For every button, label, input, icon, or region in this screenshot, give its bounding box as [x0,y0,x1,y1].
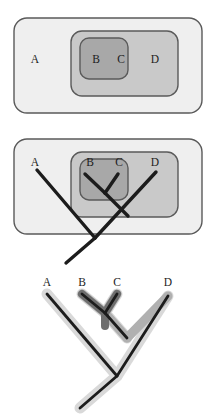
overlay-label-b: B [86,156,94,168]
overlay-label-d: D [151,156,159,168]
overlay-label-c: C [115,156,123,168]
branch-root [80,376,117,408]
overlay-label-a: A [31,156,40,168]
tree-label-c: C [113,276,121,288]
set-label-a: A [31,53,40,65]
nested-sets-panel: A B C D [0,0,217,130]
set-label-b: B [92,53,100,65]
nested-clade-figure: A B C D A B C D [0,0,217,415]
branch-root [66,238,95,263]
cladogram-panel: A B C D [0,268,217,415]
set-label-d: D [151,53,159,65]
tree-label-d: D [164,276,172,288]
tree-label-a: A [43,276,52,288]
tree-label-b: B [78,276,86,288]
set-label-c: C [117,53,125,65]
nested-sets-with-cladogram-panel: A B C D [0,130,217,270]
